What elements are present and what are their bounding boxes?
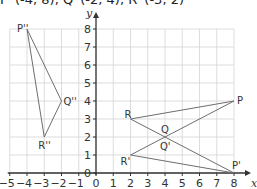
y-tick-label: 7 <box>84 41 91 54</box>
x-tick-label: 0 <box>93 177 100 189</box>
y-tick-label: 8 <box>84 23 91 36</box>
x-tick-label: −2 <box>50 177 66 189</box>
coordinate-plane: −5−4−3−2−1012345678012345678xy PQRP'Q'R'… <box>0 0 257 189</box>
label-p-prime: P' <box>232 160 241 171</box>
y-tick-label: 0 <box>84 167 91 180</box>
x-tick-label: −4 <box>16 177 32 189</box>
x-tick-label: −5 <box>0 177 15 189</box>
y-tick-label: 6 <box>84 59 91 72</box>
y-tick-label: 2 <box>84 131 91 144</box>
label-r-prime: R' <box>121 156 131 167</box>
x-axis-label: x <box>251 177 257 189</box>
label-q: Q <box>161 124 169 135</box>
x-tick-label: 1 <box>110 177 117 189</box>
x-axis-arrow-icon <box>245 170 251 176</box>
label-p: P <box>237 95 243 106</box>
y-axis-arrow-icon <box>93 12 99 18</box>
y-tick-label: 1 <box>84 149 91 162</box>
x-tick-label: 8 <box>231 177 238 189</box>
x-tick-label: 2 <box>127 177 134 189</box>
label-p-double-prime: P'' <box>17 23 29 34</box>
x-tick-label: 3 <box>144 177 151 189</box>
x-tick-label: 6 <box>196 177 203 189</box>
y-tick-label: 3 <box>84 113 91 126</box>
y-axis-label: y <box>85 7 93 20</box>
grid-lines <box>10 29 234 173</box>
y-tick-label: 4 <box>84 95 91 108</box>
label-r: R <box>125 109 132 120</box>
label-q-double-prime: Q'' <box>64 96 77 107</box>
x-tick-label: 4 <box>162 177 169 189</box>
x-tick-label: −1 <box>68 177 84 189</box>
x-tick-label: −3 <box>33 177 49 189</box>
x-tick-label: 5 <box>179 177 186 189</box>
point-labels: PQRP'Q'R'P''Q''R'' <box>17 23 243 171</box>
y-tick-label: 5 <box>84 77 91 90</box>
x-tick-label: 7 <box>213 177 220 189</box>
label-q-prime: Q' <box>160 141 171 152</box>
label-r-double-prime: R'' <box>38 140 50 151</box>
